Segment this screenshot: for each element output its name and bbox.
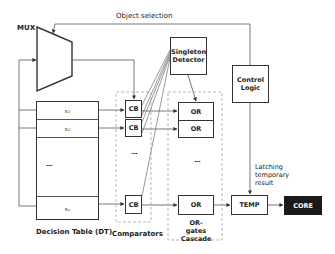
dt-row-xn: xₙ [37,196,98,219]
latching-line1: Latching [255,163,289,171]
or-gate-1: OR [178,102,214,121]
singleton-detector: Singleton Detector [170,37,207,75]
singleton-line1: Singleton [171,48,206,56]
mux-shape [37,27,72,91]
or-gate-n: OR [178,195,214,215]
mux-label: MUX [17,24,35,32]
singleton-line2: Detector [173,56,205,64]
comparators-label: Comparators [112,230,163,238]
control-line1: Control [237,76,264,84]
or-cascade-label: OR-gates Cascade [181,219,211,243]
dt-row-x2: x₂ [37,120,98,138]
comparator-cb-2: CB [125,119,142,137]
decision-table: x₁ x₂ ⋮ xₙ [36,101,99,220]
object-selection-label: Object selection [116,12,173,20]
control-line2: Logic [241,84,260,92]
decision-table-label: Decision Table (DT) [36,228,112,236]
temp-register: TEMP [231,195,268,215]
latching-line2: temporary [255,171,289,179]
dt-row-ellipsis: ⋮ [37,138,98,192]
or-gate-2: OR [178,120,214,138]
or-cascade-line2: Cascade [181,235,211,243]
comparator-cb-n: CB [125,195,142,214]
dt-row-x1: x₁ [37,102,98,120]
latching-line3: result [255,179,289,187]
latching-label: Latching temporary result [255,163,289,187]
or-cascade-line1: OR-gates [181,219,211,235]
or-ellipsis: ⋮ [193,158,201,164]
comparator-cb-1: CB [125,100,142,118]
control-logic: Control Logic [232,65,269,103]
core-block: CORE [284,196,322,215]
comparators-ellipsis: ⋮ [130,150,138,156]
